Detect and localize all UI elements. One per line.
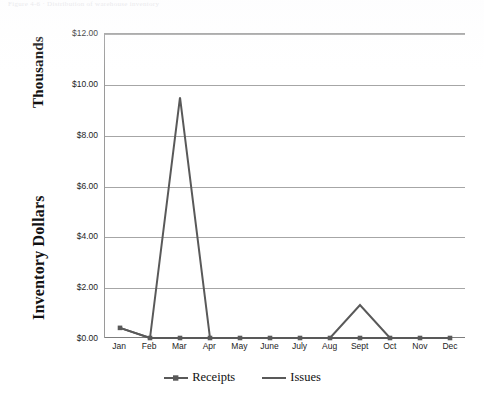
x-axis-tick-label: May xyxy=(231,341,247,351)
y-axis-tick-label: $0.00 xyxy=(46,333,98,343)
x-axis-tick-label: Mar xyxy=(172,341,187,351)
legend-item-issues[interactable]: Issues xyxy=(261,370,321,385)
legend-label: Receipts xyxy=(192,370,235,385)
series-layer xyxy=(105,34,465,338)
data-point-marker xyxy=(178,336,183,341)
legend-swatch-icon xyxy=(261,372,287,384)
x-axis-tick-label: Jan xyxy=(112,341,126,351)
x-axis-tick-label: Feb xyxy=(142,341,157,351)
legend-item-receipts[interactable]: Receipts xyxy=(163,370,235,385)
x-axis-tick-label: Aug xyxy=(322,341,337,351)
y-axis-units-label: Thousands xyxy=(30,36,47,108)
plot-area xyxy=(104,33,465,338)
legend-swatch-icon xyxy=(163,372,189,384)
x-axis-tick-labels: JanFebMarAprMayJuneJulyAugSeptOctNovDec xyxy=(104,341,465,359)
y-axis-tick-label: $4.00 xyxy=(46,231,98,241)
series-line-receipts xyxy=(120,328,450,338)
x-axis-tick-label: Apr xyxy=(203,341,216,351)
chart-legend: ReceiptsIssues xyxy=(0,370,484,385)
legend-label: Issues xyxy=(290,370,321,385)
y-axis-tick-label: $6.00 xyxy=(46,181,98,191)
y-axis-tick-labels: $0.00$2.00$4.00$6.00$8.00$10.00$12.00 xyxy=(46,0,98,403)
x-axis-tick-label: Sept xyxy=(351,341,369,351)
line-chart: Thousands Inventory Dollars $0.00$2.00$4… xyxy=(0,0,484,403)
y-axis-tick-label: $8.00 xyxy=(46,130,98,140)
data-point-marker xyxy=(358,336,363,341)
y-axis-tick-label: $10.00 xyxy=(46,79,98,89)
y-axis-tick-label: $12.00 xyxy=(46,28,98,38)
y-axis-tick-label: $2.00 xyxy=(46,282,98,292)
x-axis-tick-label: Nov xyxy=(412,341,427,351)
x-axis-tick-label: July xyxy=(292,341,307,351)
x-axis-tick-label: Dec xyxy=(442,341,457,351)
x-axis-tick-label: June xyxy=(260,341,278,351)
series-line-issues xyxy=(120,97,450,338)
x-axis-tick-label: Oct xyxy=(383,341,396,351)
